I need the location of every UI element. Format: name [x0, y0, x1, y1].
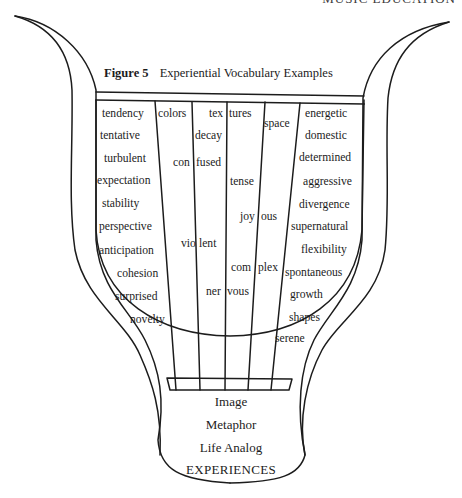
word-stability: stability — [102, 198, 139, 210]
word-flexibility: flexibility — [301, 244, 347, 256]
word-con: con — [173, 157, 190, 169]
figure-label: Figure 5 — [104, 66, 149, 80]
word-novelty: novelty — [130, 314, 165, 326]
base-label-image: Image — [131, 395, 331, 408]
word-anticipation: anticipation — [99, 245, 154, 257]
figure-page: MUSIC EDUCATION — [0, 0, 462, 498]
word-supernatural: supernatural — [291, 221, 348, 233]
figure-caption: Figure 5 Experiential Vocabulary Example… — [104, 66, 333, 81]
word-expectation: expectation — [97, 175, 150, 187]
word-fused: fused — [196, 157, 221, 169]
top-crossbar-lower — [96, 100, 364, 104]
word-space: space — [264, 118, 290, 130]
word-serene: serene — [275, 333, 305, 345]
word-colors: colors — [158, 108, 186, 120]
word-joy: joy — [240, 211, 255, 223]
word-energetic: energetic — [305, 108, 347, 120]
string-1 — [155, 101, 176, 390]
string-5 — [271, 103, 300, 390]
word-tex: tex — [209, 108, 223, 120]
string-4 — [248, 102, 265, 390]
word-growth: growth — [290, 289, 323, 301]
word-vous: vous — [227, 286, 249, 298]
top-crossbar — [96, 92, 364, 96]
word-com: com — [231, 262, 251, 274]
string-3 — [225, 102, 227, 390]
bottom-bridge — [167, 378, 292, 390]
figure-title: Experiential Vocabulary Examples — [160, 66, 333, 80]
word-determined: determined — [299, 152, 351, 164]
word-turbulent: turbulent — [104, 153, 146, 165]
word-domestic: domestic — [305, 130, 347, 142]
word-vio: vio — [181, 238, 196, 250]
word-ous: ous — [261, 211, 277, 223]
word-aggressive: aggressive — [303, 176, 352, 188]
word-tentative: tentative — [100, 130, 140, 142]
base-label-experiences: EXPERIENCES — [131, 463, 331, 476]
word-lent: lent — [199, 238, 216, 250]
word-plex: plex — [258, 262, 278, 274]
word-tures: tures — [229, 108, 252, 120]
base-label-life-analog: Life Analog — [131, 441, 331, 454]
word-tense: tense — [230, 176, 254, 188]
word-shapes: shapes — [289, 312, 320, 324]
left-horn-inner — [15, 16, 160, 455]
word-cohesion: cohesion — [117, 268, 158, 280]
word-perspective: perspective — [99, 221, 152, 233]
word-decay: decay — [195, 130, 222, 142]
word-surprised: surprised — [115, 291, 158, 303]
word-divergence: divergence — [299, 199, 350, 211]
word-spontaneous: spontaneous — [285, 267, 342, 279]
right-horn-inner — [302, 22, 449, 455]
word-ner: ner — [206, 286, 221, 298]
word-tendency: tendency — [102, 108, 144, 120]
base-label-metaphor: Metaphor — [131, 418, 331, 431]
